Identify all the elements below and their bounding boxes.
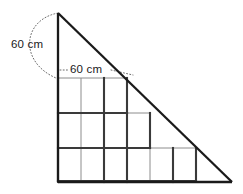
horizontal-dimension-label: 60 cm [70,63,102,75]
triangle-hypotenuse [58,13,232,182]
geometry-diagram [0,0,243,194]
vertical-dimension-label: 60 cm [11,38,43,50]
figure-canvas: 60 cm 60 cm [0,0,243,194]
grid-heavy-lines [58,78,196,182]
triangle-outline [58,13,232,182]
